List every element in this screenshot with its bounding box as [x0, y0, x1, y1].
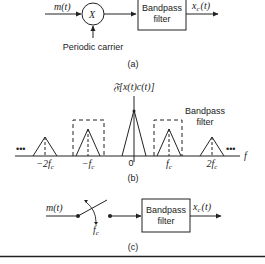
caption-c: (c)	[128, 242, 139, 252]
tick-minus-2fc: −2fc	[36, 158, 55, 171]
ellipsis-right: •••	[226, 144, 235, 154]
panel-b: 𝔉[x(t)c(t)] f Bandpass filter ••• ••• −2…	[15, 81, 248, 183]
filter-label-c2: filter	[157, 216, 174, 226]
tick-2fc: 2fc	[207, 158, 219, 171]
baseband-peak	[133, 110, 136, 113]
spectrum-title: 𝔉[x(t)c(t)]	[113, 81, 155, 93]
modulation-diagram: m(t) X Bandpass filter xc(t) Periodic ca…	[0, 0, 265, 264]
axis-label-f: f	[244, 150, 248, 161]
rotation-arrowhead-top	[84, 200, 88, 203]
bandpass-label-1: Bandpass	[185, 106, 226, 116]
filter-label-2: filter	[153, 14, 170, 24]
filter-label-1: Bandpass	[142, 3, 183, 13]
switch-rotation-arc	[86, 202, 96, 222]
tick-minus-fc: −fc	[82, 158, 96, 171]
filter-label-c1: Bandpass	[146, 205, 187, 215]
input-label-m: m(t)	[54, 1, 71, 13]
tick-fc: fc	[166, 158, 173, 171]
multiplier-symbol: X	[88, 9, 96, 20]
ellipsis-left: •••	[16, 144, 25, 154]
output-label-c: xc(t)	[192, 201, 212, 214]
output-label: xc(t)	[191, 0, 211, 13]
panel-a: m(t) X Bandpass filter xc(t) Periodic ca…	[45, 0, 218, 69]
carrier-label: Periodic carrier	[63, 42, 124, 52]
tick-zero: 0	[128, 158, 133, 168]
panel-c: m(t) Bandpass filter xc(t) fc (c)	[46, 199, 221, 252]
bandpass-window-positive	[154, 120, 182, 156]
caption-a: (a)	[128, 59, 139, 69]
switch-arm	[78, 200, 107, 216]
bandpass-label-2: filter	[196, 117, 213, 127]
caption-b: (b)	[128, 173, 139, 183]
input-label-m-c: m(t)	[46, 202, 63, 214]
switch-rate-label: fc	[93, 224, 100, 237]
